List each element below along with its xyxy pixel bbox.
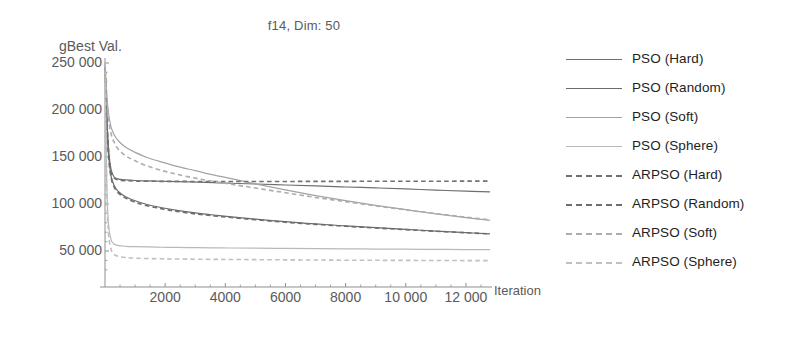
plot-svg [0, 0, 560, 337]
legend-item[interactable]: ARPSO (Soft) [566, 218, 786, 247]
y-tick-label: 250 000 [36, 54, 102, 70]
legend-line-icon [566, 82, 622, 94]
legend-item[interactable]: PSO (Sphere) [566, 131, 786, 160]
legend-line-icon [566, 198, 622, 210]
legend-label: ARPSO (Sphere) [632, 254, 737, 269]
x-tick-label: 10 000 [384, 289, 427, 305]
y-tick-label: 200 000 [36, 101, 102, 117]
legend-line-icon [566, 53, 622, 65]
legend-label: ARPSO (Hard) [632, 167, 722, 182]
y-tick-label: 150 000 [36, 148, 102, 164]
series-line [105, 63, 490, 220]
plot-area [0, 0, 560, 337]
legend-line-icon [566, 169, 622, 181]
series-line [105, 63, 490, 192]
series-line [105, 63, 490, 250]
legend-label: PSO (Random) [632, 80, 725, 95]
legend-item[interactable]: ARPSO (Sphere) [566, 247, 786, 276]
legend-item[interactable]: ARPSO (Random) [566, 189, 786, 218]
x-tick-label: 2000 [150, 289, 181, 305]
chart-legend: PSO (Hard)PSO (Random)PSO (Soft)PSO (Sph… [566, 44, 786, 276]
legend-label: PSO (Soft) [632, 109, 698, 124]
legend-line-icon [566, 256, 622, 268]
legend-label: ARPSO (Soft) [632, 225, 717, 240]
legend-item[interactable]: ARPSO (Hard) [566, 160, 786, 189]
legend-item[interactable]: PSO (Hard) [566, 44, 786, 73]
x-tick-label: 8000 [330, 289, 361, 305]
legend-line-icon [566, 227, 622, 239]
legend-item[interactable]: PSO (Random) [566, 73, 786, 102]
series-line [105, 63, 490, 220]
legend-label: PSO (Sphere) [632, 138, 718, 153]
y-tick-label: 100 000 [36, 195, 102, 211]
chart-figure: f14, Dim: 50 gBest Val. Iteration 50 000… [0, 0, 788, 337]
legend-item[interactable]: PSO (Soft) [566, 102, 786, 131]
x-tick-label: 6000 [270, 289, 301, 305]
y-tick-label: 50 000 [36, 242, 102, 258]
legend-line-icon [566, 140, 622, 152]
series-line [105, 63, 490, 181]
legend-line-icon [566, 111, 622, 123]
legend-label: PSO (Hard) [632, 51, 704, 66]
x-tick-label: 12 000 [445, 289, 488, 305]
x-tick-label: 4000 [210, 289, 241, 305]
legend-label: ARPSO (Random) [632, 196, 744, 211]
